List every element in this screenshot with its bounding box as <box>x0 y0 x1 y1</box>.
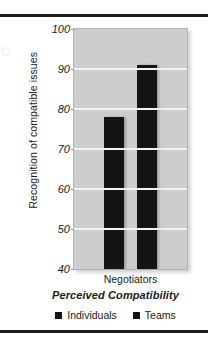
y-tick-mark-70 <box>71 149 74 150</box>
y-tick-mark-80 <box>71 109 74 110</box>
y-tick-mark-90 <box>71 69 74 70</box>
y-tick-mark-60 <box>71 189 74 190</box>
legend-label-teams: Teams <box>145 310 176 321</box>
chart-legend: Individuals Teams <box>28 310 203 321</box>
y-tick-label-40: 40 <box>36 264 70 275</box>
bar-chart-figure: Recognition of compatible issues 1009080… <box>0 17 208 330</box>
y-tick-mark-50 <box>71 229 74 230</box>
y-tick-label-100: 100 <box>36 24 70 35</box>
legend-swatch-individuals-icon <box>55 312 62 319</box>
y-tick-label-90: 90 <box>36 64 70 75</box>
footer-rule <box>0 330 208 333</box>
x-axis-category-label: Negotiators <box>73 274 188 285</box>
legend-label-individuals: Individuals <box>67 310 117 321</box>
legend-item-individuals: Individuals <box>55 310 117 321</box>
gridline-50 <box>74 228 187 230</box>
gridline-80 <box>74 108 187 110</box>
plot-area: 100908070605040 <box>73 28 188 270</box>
gridline-70 <box>74 148 187 150</box>
gridline-90 <box>74 68 187 70</box>
x-axis-title: Perceived Compatibility <box>28 290 203 301</box>
y-tick-mark-40 <box>71 269 74 270</box>
bar-teams <box>137 65 157 269</box>
legend-swatch-teams-icon <box>133 312 140 319</box>
legend-item-teams: Teams <box>133 310 176 321</box>
y-tick-label-70: 70 <box>36 144 70 155</box>
y-tick-label-80: 80 <box>36 104 70 115</box>
y-tick-label-60: 60 <box>36 184 70 195</box>
y-tick-mark-100 <box>71 29 74 30</box>
y-tick-label-50: 50 <box>36 224 70 235</box>
gridline-60 <box>74 188 187 190</box>
bar-individuals <box>104 117 124 269</box>
